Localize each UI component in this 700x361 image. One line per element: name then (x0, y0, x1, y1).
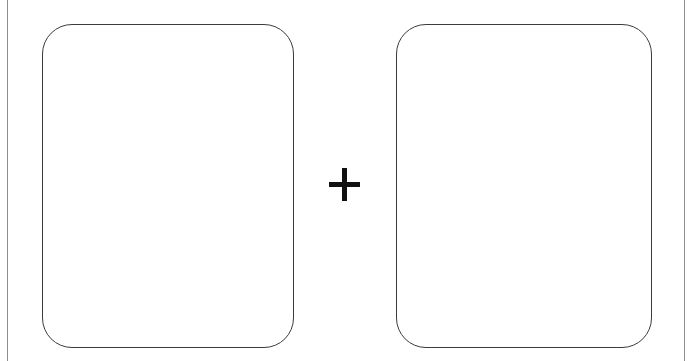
left-panel-surface (43, 25, 293, 347)
screenshot-canvas (0, 0, 700, 361)
right-panel-surface (397, 25, 651, 347)
left-panel[interactable] (42, 24, 294, 348)
plus-icon-vertical-bar (342, 168, 347, 201)
right-panel[interactable] (396, 24, 652, 348)
plus-icon (329, 168, 360, 201)
frame-rule-right (684, 0, 685, 361)
frame-rule-left (7, 0, 8, 361)
